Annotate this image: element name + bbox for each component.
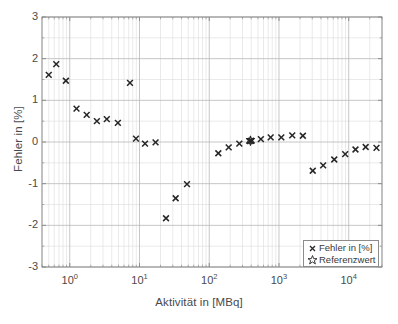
legend-item-fehler: Fehler in [%] [306,242,376,254]
x-tick-label: 101 [119,272,159,286]
x-marker-icon [306,242,319,254]
y-tick-label: 0 [16,135,38,147]
x-axis-label: Aktivität in [MBq] [0,296,398,308]
y-tick-label: 2 [16,52,38,64]
x-tick-label: 103 [259,272,299,286]
y-tick-label: 3 [16,10,38,22]
legend-label-fehler: Fehler in [%] [319,242,372,254]
hexagram-marker-icon [306,254,319,266]
y-tick-label: -3 [16,260,38,272]
x-tick-label: 100 [50,272,90,286]
x-tick-label: 102 [189,272,229,286]
chart-legend: Fehler in [%] Referenzwert [303,240,379,267]
y-tick-label: 1 [16,93,38,105]
y-tick-label: -2 [16,218,38,230]
x-tick-label: 104 [329,272,369,286]
y-tick-label: -1 [16,177,38,189]
legend-item-referenzwert: Referenzwert [306,254,376,266]
legend-label-referenzwert: Referenzwert [319,254,376,266]
